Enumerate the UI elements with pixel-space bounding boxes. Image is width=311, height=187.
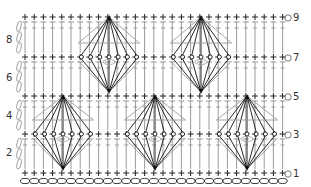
fan-motif [216,94,277,171]
row-number: 3 [293,129,299,140]
chain-loop-icon [16,71,22,82]
row-number: 2 [6,147,12,158]
chain-loop-icon [16,100,22,111]
loop-icon [43,132,47,136]
oval-icon [112,178,121,183]
oval-icon [250,178,259,183]
oval-icon [76,178,85,183]
oval-icon [204,178,213,183]
oval-icon [85,178,94,183]
row-number: 9 [293,12,299,23]
loop-icon [52,132,56,136]
oval-icon [177,178,186,183]
oval-icon [66,178,75,183]
loop-icon [125,55,129,59]
fan-motif [32,94,93,171]
loop-icon [125,132,129,136]
loop-icon [61,132,65,136]
chain-loop-icon [16,81,22,92]
oval-icon [30,178,39,183]
loop-icon [153,132,157,136]
fan-motif [170,15,231,94]
oval-icon [149,178,158,183]
foundation-chain [20,178,287,183]
loop-icon [217,55,221,59]
oval-icon [140,178,149,183]
row-number: 6 [6,72,12,83]
chain-loop-icon [16,120,22,131]
loop-icon [89,132,93,136]
loop-icon [208,55,212,59]
fan-motif [78,15,139,94]
chain-loop-icon [16,31,22,42]
oval-icon [260,178,269,183]
fan-motifs [32,15,277,171]
loop-icon [217,132,221,136]
loop-icon [263,132,267,136]
oval-icon [269,178,278,183]
row-start-marker-icon [285,132,291,138]
oval-icon [57,178,66,183]
row-number: 4 [6,110,12,121]
loop-icon [171,132,175,136]
oval-icon [39,178,48,183]
loop-icon [190,55,194,59]
oval-icon [214,178,223,183]
chain-loop-icon [16,42,22,53]
loop-icon [245,132,249,136]
loop-icon [79,132,83,136]
oval-icon [122,178,131,183]
oval-icon [48,178,57,183]
row-number: 1 [293,168,299,179]
loop-icon [116,55,120,59]
loop-icon [144,132,148,136]
chain-loop-icon [16,61,22,72]
chain-loop-icon [16,138,22,149]
loop-icon [171,55,175,59]
row-start-marker-icon [285,15,291,21]
loop-icon [199,55,203,59]
oval-icon [94,178,103,183]
loop-icon [98,55,102,59]
turning-chains [16,21,22,170]
oval-icon [131,178,140,183]
loop-icon [135,55,139,59]
chain-loop-icon [16,148,22,159]
loop-icon [107,55,111,59]
chain-loop-icon [16,110,22,121]
loop-icon [181,55,185,59]
crochet-chart: 123456789 [0,0,311,187]
loop-icon [227,132,231,136]
row-start-marker-icon [285,171,291,177]
oval-icon [195,178,204,183]
loop-icon [33,132,37,136]
row-number: 5 [293,91,299,102]
loop-icon [70,132,74,136]
loop-icon [135,132,139,136]
oval-icon [241,178,250,183]
loop-icon [254,132,258,136]
loop-icon [236,132,240,136]
chain-loop-icon [16,158,22,169]
loop-icon [89,55,93,59]
oval-icon [186,178,195,183]
loop-icon [273,132,277,136]
oval-icon [278,178,287,183]
row-number: 8 [6,34,12,45]
loop-icon [79,55,83,59]
oval-icon [232,178,241,183]
oval-icon [223,178,232,183]
row-start-marker-icon [285,94,291,100]
loop-icon [162,132,166,136]
oval-icon [168,178,177,183]
row-number: 7 [293,52,299,63]
loop-icon [181,132,185,136]
row-start-marker-icon [285,55,291,61]
oval-icon [20,178,29,183]
oval-icon [103,178,112,183]
oval-icon [158,178,167,183]
fan-motif [124,94,185,171]
loop-icon [227,55,231,59]
chain-loop-icon [16,21,22,32]
